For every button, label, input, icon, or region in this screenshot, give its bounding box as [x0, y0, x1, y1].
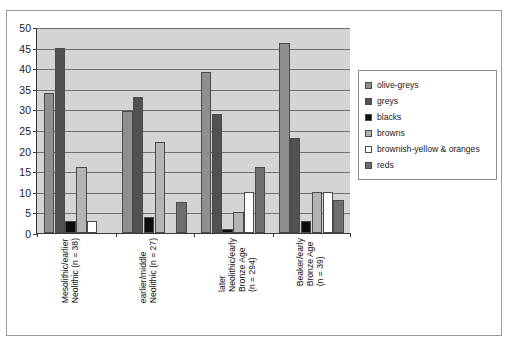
y-axis-tick-label: 15: [19, 167, 31, 178]
x-axis-label-line: Bronze Age: [237, 238, 247, 292]
legend-item: reds: [365, 157, 491, 173]
legend-item: blacks: [365, 109, 491, 125]
x-axis-category-labels: Mesolithic/earlierNeolithic (n = 38)earl…: [36, 238, 350, 338]
bar: [133, 97, 143, 233]
bar: [212, 114, 222, 233]
y-axis-tick-label: 45: [19, 43, 31, 54]
legend-label: browns: [377, 129, 405, 138]
x-axis-label-line: Neolithic (n = 27): [148, 238, 158, 303]
bar: [87, 221, 97, 233]
x-axis-category-label: Beaker/earlyBronze Age(n = 39): [295, 238, 325, 286]
x-axis-category-label: Mesolithic/earlierNeolithic (n = 38): [60, 238, 80, 303]
bar: [122, 111, 132, 233]
bar: [279, 43, 289, 233]
x-axis-label-line: Beaker/early: [295, 238, 305, 286]
legend-swatch-icon: [365, 98, 372, 105]
legend-item: brownish-yellow & oranges: [365, 141, 491, 157]
bar: [155, 142, 165, 233]
x-axis-label-line: Bronze Age: [305, 238, 315, 286]
legend-label: reds: [377, 161, 394, 170]
bars-layer: [37, 28, 350, 233]
x-axis-category-label: laterNeolithic/earlyBronze Age(n = 294): [217, 238, 257, 292]
bar: [44, 93, 54, 233]
y-axis-tick-label: 30: [19, 105, 31, 116]
x-axis-label-line: earlier/middle: [138, 238, 148, 303]
bar: [301, 221, 311, 233]
y-axis-tick-label: 20: [19, 146, 31, 157]
bar: [244, 192, 254, 233]
bar: [233, 212, 243, 233]
bar: [201, 72, 211, 233]
x-axis-category-label: earlier/middleNeolithic (n = 27): [138, 238, 158, 303]
x-axis-label-line: Mesolithic/earlier: [60, 238, 70, 303]
x-axis-tick: [350, 233, 351, 237]
bar: [255, 167, 265, 233]
y-axis-tick-label: 0: [25, 229, 31, 240]
y-axis-tick-label: 35: [19, 85, 31, 96]
legend-item: browns: [365, 125, 491, 141]
bar: [144, 217, 154, 233]
y-axis-tick-label: 40: [19, 64, 31, 75]
x-axis-tick: [194, 233, 195, 237]
x-axis-tick: [116, 233, 117, 237]
chart-legend: olive-greysgreysblacksbrownsbrownish-yel…: [358, 70, 497, 180]
legend-item: greys: [365, 93, 491, 109]
legend-item: olive-greys: [365, 77, 491, 93]
bar: [55, 48, 65, 233]
x-axis-label-line: (n = 294): [247, 238, 257, 292]
plot-area: 05101520253035404550: [36, 28, 350, 234]
bar: [65, 221, 75, 233]
bar: [176, 202, 186, 233]
x-axis-label-line: Neolithic/early: [227, 238, 237, 292]
bar: [222, 229, 232, 233]
legend-label: brownish-yellow & oranges: [377, 145, 480, 154]
legend-label: blacks: [377, 113, 401, 122]
x-axis-tick: [37, 233, 38, 237]
legend-swatch-icon: [365, 146, 372, 153]
chart-figure: 05101520253035404550 Mesolithic/earlierN…: [0, 0, 511, 346]
y-axis-tick-label: 10: [19, 188, 31, 199]
bar: [312, 192, 322, 233]
x-axis-label-line: Neolithic (n = 38): [70, 238, 80, 303]
bar: [290, 138, 300, 233]
x-axis-tick: [273, 233, 274, 237]
legend-swatch-icon: [365, 130, 372, 137]
legend-label: greys: [377, 97, 398, 106]
plot-wrapper: 05101520253035404550: [36, 28, 350, 234]
x-axis-label-line: later: [217, 238, 227, 292]
bar: [333, 200, 343, 233]
legend-swatch-icon: [365, 162, 372, 169]
legend-label: olive-greys: [377, 81, 419, 90]
bar: [76, 167, 86, 233]
y-axis-tick-label: 5: [25, 208, 31, 219]
legend-swatch-icon: [365, 82, 372, 89]
legend-swatch-icon: [365, 114, 372, 121]
y-axis-tick-label: 50: [19, 23, 31, 34]
bar: [323, 192, 333, 233]
x-axis-label-line: (n = 39): [315, 238, 325, 286]
y-axis-tick-label: 25: [19, 126, 31, 137]
